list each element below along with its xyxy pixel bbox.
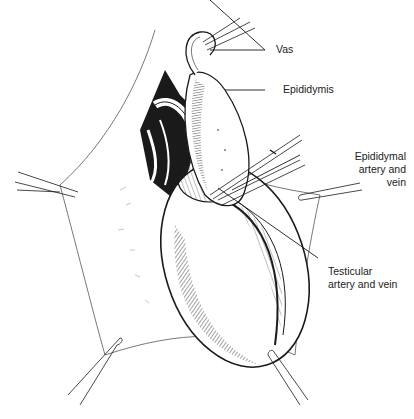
label-vas: Vas [276,43,293,56]
label-line: vein [330,176,406,189]
label-epididymis: Epididymis [283,83,334,96]
label-line: artery and [330,163,406,176]
vas-loop [186,32,215,75]
label-epididymal-artery-and-vein: Epididymal artery and vein [330,150,406,189]
label-testicular-artery-and-vein: Testicular artery and vein [328,265,397,291]
clamp-left [15,172,78,197]
anatomical-illustration [0,0,414,419]
label-line: artery and vein [328,278,397,291]
label-line: Testicular [328,265,397,278]
label-line: Epididymal [330,150,406,163]
clamp-bottom-left [68,338,122,405]
